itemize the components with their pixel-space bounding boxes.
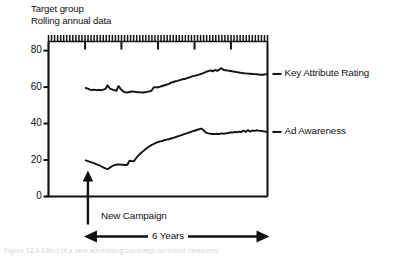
chart-figure: Target group Rolling annual data 0 20 40… <box>0 0 398 256</box>
annotation-label-new-campaign: New Campaign <box>101 211 167 221</box>
y-tick-label-40: 40 <box>20 118 42 128</box>
y-tick-label-20: 20 <box>20 155 42 165</box>
y-tick-label-80: 80 <box>20 45 42 55</box>
series-line-ad-awareness <box>86 129 268 169</box>
legend-label-ad-awareness: Ad Awareness <box>285 126 346 136</box>
plot-frame <box>46 42 268 197</box>
y-tick-label-60: 60 <box>20 82 42 92</box>
series-line-key-attribute-rating <box>86 68 268 92</box>
legend-label-key-attribute-rating: Key Attribute Rating <box>285 68 370 78</box>
y-tick-label-0: 0 <box>20 191 42 201</box>
legend-marks <box>273 74 282 132</box>
annotation-label-six-years: 6 Years <box>152 231 184 241</box>
figure-caption: Figure 12.4 Effect of a new advertising … <box>4 247 218 255</box>
